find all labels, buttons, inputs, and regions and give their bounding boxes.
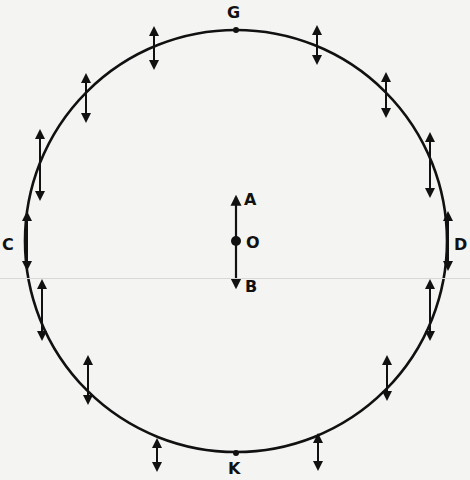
scan-line: [0, 278, 470, 279]
label-d: D: [454, 235, 467, 254]
label-c: C: [2, 235, 14, 254]
point-o-dot: [231, 236, 241, 246]
label-a: A: [244, 190, 257, 209]
point-k-dot: [233, 450, 239, 456]
label-o: O: [246, 233, 260, 252]
boundary-arrows: [27, 27, 448, 470]
diagram-canvas: G K C D O A B: [0, 0, 470, 480]
label-k: K: [228, 459, 241, 478]
point-g-dot: [233, 27, 239, 33]
label-g: G: [227, 3, 240, 22]
label-b: B: [245, 277, 257, 296]
field-diagram: G K C D O A B: [0, 0, 470, 480]
